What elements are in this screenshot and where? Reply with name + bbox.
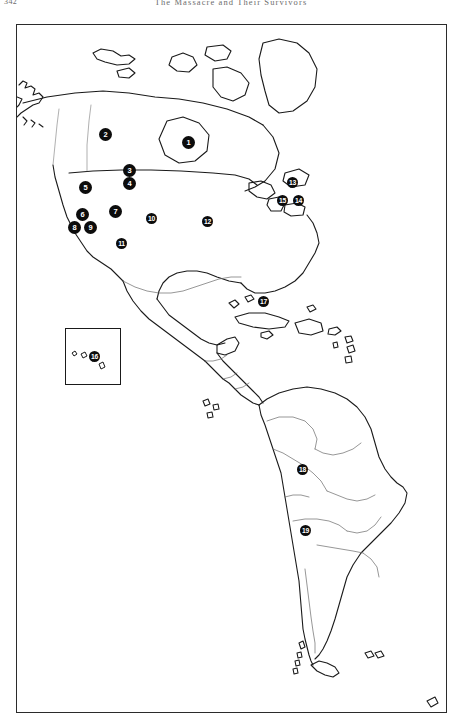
map-marker-11[interactable]: 11 xyxy=(116,238,127,249)
lesser-antilles-b xyxy=(347,345,355,353)
map-marker-17[interactable]: 17 xyxy=(258,296,269,307)
map-marker-12[interactable]: 12 xyxy=(202,216,213,227)
tierra-del-fuego xyxy=(311,661,339,677)
map-marker-2[interactable]: 2 xyxy=(99,128,112,141)
map-marker-13[interactable]: 13 xyxy=(287,177,298,188)
arctic-island-east xyxy=(169,53,197,72)
central-america-east xyxy=(217,353,263,403)
border-uruguay xyxy=(363,553,379,577)
lesser-antilles-c xyxy=(345,356,352,363)
us-east-coast xyxy=(241,215,319,293)
greenland-outline xyxy=(259,39,317,113)
map-marker-18[interactable]: 18 xyxy=(297,464,308,475)
chile-island-c xyxy=(293,668,298,674)
chiloe-island xyxy=(299,641,305,649)
galapagos-b xyxy=(213,404,219,410)
bahama-island-a xyxy=(229,300,239,308)
bahama-island-b xyxy=(245,295,254,302)
yucatan-peninsula xyxy=(217,337,239,355)
arctic-island-mid xyxy=(117,68,135,78)
south-atlantic-island xyxy=(427,697,438,707)
arctic-island-northeast xyxy=(205,45,231,61)
arctic-island-west xyxy=(93,49,135,65)
border-nicaragua xyxy=(235,383,249,389)
south-america-east-coast xyxy=(259,387,407,659)
border-paraguay-argentina xyxy=(317,545,363,553)
border-colombia xyxy=(267,417,317,449)
canada-north-coast xyxy=(23,91,263,125)
border-honduras xyxy=(223,373,237,379)
aleutian-islands xyxy=(23,117,43,127)
baffin-island xyxy=(213,67,249,101)
border-brazil-bolivia xyxy=(327,491,375,501)
lesser-antilles-d xyxy=(333,342,338,348)
galapagos-a xyxy=(203,399,210,406)
galapagos-c xyxy=(207,412,213,418)
border-chile-argentina xyxy=(305,569,315,653)
hawaii-island-oahu xyxy=(81,352,87,358)
map-marker-19[interactable]: 19 xyxy=(300,525,311,536)
jamaica-outline xyxy=(261,331,273,339)
map-marker-14[interactable]: 14 xyxy=(293,195,304,206)
map-marker-3[interactable]: 3 xyxy=(123,164,136,177)
map-figure-frame: 1 2 3 4 5 6 7 8 9 10 11 12 13 14 15 16 1… xyxy=(16,24,447,713)
chile-island-a xyxy=(297,652,302,658)
central-america-west xyxy=(205,361,259,405)
border-brazil-paraguay xyxy=(347,517,381,533)
border-alberta xyxy=(87,105,91,171)
hawaii-island-kauai xyxy=(72,351,77,356)
gulf-coast xyxy=(157,271,241,299)
running-head-title: The Massacre and Their Survivors xyxy=(0,0,462,7)
falkland-east xyxy=(375,651,384,658)
map-marker-10[interactable]: 10 xyxy=(146,213,157,224)
lake-superior xyxy=(249,181,275,199)
map-marker-8[interactable]: 8 xyxy=(68,221,81,234)
puerto-rico-outline xyxy=(328,327,341,335)
map-marker-6[interactable]: 6 xyxy=(76,208,89,221)
map-marker-15[interactable]: 15 xyxy=(277,195,288,206)
border-peru-brazil-north xyxy=(285,495,309,497)
map-marker-5[interactable]: 5 xyxy=(79,181,92,194)
running-head: 342 The Massacre and Their Survivors xyxy=(0,0,462,9)
border-venezuela-guyana xyxy=(315,443,361,455)
map-marker-16[interactable]: 16 xyxy=(89,351,100,362)
map-marker-7[interactable]: 7 xyxy=(109,205,122,218)
hispaniola-outline xyxy=(295,319,323,335)
chile-island-b xyxy=(295,660,300,666)
mexico-south xyxy=(157,299,225,345)
bahama-island-c xyxy=(307,305,316,312)
map-marker-1[interactable]: 1 xyxy=(182,136,195,149)
border-bc-west xyxy=(53,109,59,165)
hawaii-island-big xyxy=(99,362,105,369)
lesser-antilles-a xyxy=(345,336,353,343)
map-marker-4[interactable]: 4 xyxy=(123,177,136,190)
falkland-west xyxy=(365,651,374,658)
us-canada-border xyxy=(69,170,257,185)
aleutian-tip xyxy=(17,97,22,107)
border-guatemala xyxy=(205,355,227,361)
cuba-outline xyxy=(235,313,289,329)
map-marker-9[interactable]: 9 xyxy=(84,221,97,234)
